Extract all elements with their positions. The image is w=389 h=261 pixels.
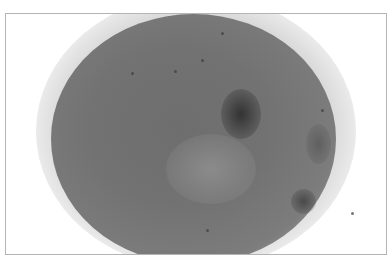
dark-inclusion (306, 124, 331, 164)
dark-inclusion (291, 189, 316, 214)
speck (321, 109, 324, 112)
speck (221, 32, 224, 35)
image-frame (5, 13, 387, 255)
dark-inclusion (221, 89, 261, 139)
speck (131, 72, 134, 75)
speck (174, 70, 177, 73)
speck (201, 59, 204, 62)
speck (351, 212, 354, 215)
specimen-body (51, 14, 336, 255)
specimen-light-region (166, 134, 256, 204)
speck (206, 229, 209, 232)
